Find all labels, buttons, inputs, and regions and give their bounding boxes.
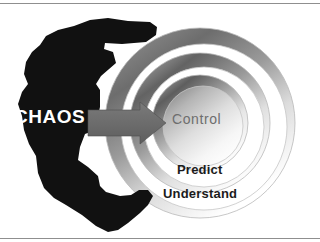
predict-label: Predict <box>177 162 222 177</box>
top-divider-rule <box>0 3 320 4</box>
control-label: Control <box>172 111 221 127</box>
diagram-canvas: CHAOS Control Predict Understand <box>0 0 320 242</box>
understand-label: Understand <box>163 186 237 201</box>
bottom-divider-rule <box>0 238 320 239</box>
chaos-label: CHAOS <box>14 106 85 128</box>
